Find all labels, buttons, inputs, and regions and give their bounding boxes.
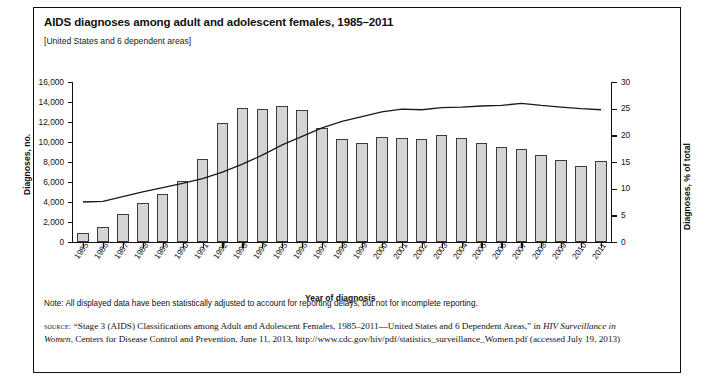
y-tick-left (68, 242, 73, 243)
y-tick-label-right: 0 (621, 237, 651, 247)
y-tick-label-right: 25 (621, 103, 651, 113)
y-tick-right (612, 189, 617, 190)
y-axis-left-title: Diagnoses, no. (22, 134, 32, 195)
y-tick-label-left: 16,000 (10, 77, 64, 87)
y-tick-right (612, 242, 617, 243)
figure-panel: AIDS diagnoses among adult and adolescen… (0, 0, 716, 385)
y-tick-label-right: 15 (621, 157, 651, 167)
figure-note: Note: All displayed data have been stati… (44, 299, 478, 308)
y-tick-label-right: 5 (621, 210, 651, 220)
y-tick-label-left: 6,000 (10, 177, 64, 187)
y-tick-label-right: 30 (621, 77, 651, 87)
y-axis-right-title: Diagnoses, % of total (682, 143, 692, 230)
y-tick-label-left: 4,000 (10, 197, 64, 207)
y-tick-right (612, 162, 617, 163)
y-tick-right (612, 109, 617, 110)
y-tick-label-right: 20 (621, 130, 651, 140)
y-tick-right (612, 82, 617, 83)
source-text-1: “Stage 3 (AIDS) Classifications among Ad… (74, 321, 543, 331)
percent-line-series (73, 82, 611, 242)
y-tick-label-left: 12,000 (10, 117, 64, 127)
y-tick-label-right: 10 (621, 183, 651, 193)
figure-subtitle: [United States and 6 dependent areas] (44, 36, 191, 46)
source-label: source: (44, 321, 71, 331)
y-tick-right (612, 135, 617, 136)
y-tick-label-left: 8,000 (10, 157, 64, 167)
figure-title: AIDS diagnoses among adult and adolescen… (44, 16, 393, 28)
y-tick-label-left: 14,000 (10, 97, 64, 107)
source-text-2: , Centers for Disease Control and Preven… (71, 334, 620, 344)
y-tick-label-left: 10,000 (10, 137, 64, 147)
y-tick-label-left: 0 (10, 237, 64, 247)
figure-source: source: “Stage 3 (AIDS) Classifications … (44, 320, 644, 345)
y-tick-label-left: 2,000 (10, 217, 64, 227)
y-tick-right (612, 215, 617, 216)
plot-area (73, 82, 611, 242)
